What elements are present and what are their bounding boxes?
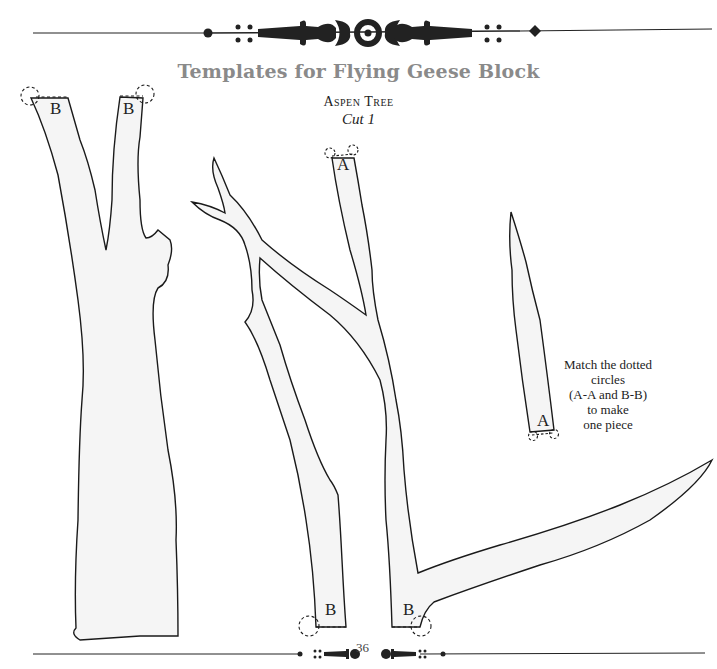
bottom-divider: [33, 649, 705, 659]
page-number: 36: [356, 640, 369, 656]
label-b-branch-right: B: [403, 600, 414, 620]
label-b-trunk-left: B: [50, 99, 61, 119]
label-a-branch: A: [337, 155, 349, 175]
pattern-page: Templates for Flying Geese Block Aspen T…: [0, 0, 717, 669]
note-line-1: Match the dotted: [553, 357, 663, 372]
template-trunk-left: [31, 97, 178, 640]
pattern-name: Aspen Tree: [0, 94, 717, 110]
label-a-twig: A: [537, 411, 549, 431]
template-twig-right: [510, 212, 554, 432]
note-line-2: circles: [553, 372, 663, 387]
cut-instruction: Cut 1: [0, 111, 717, 128]
note-line-5: one piece: [553, 417, 663, 432]
top-divider: [33, 20, 712, 46]
note-line-4: to make: [553, 402, 663, 417]
matching-instruction: Match the dotted circles (A-A and B-B) t…: [553, 357, 663, 432]
label-b-branch-left: B: [325, 600, 336, 620]
note-line-3: (A-A and B-B): [553, 387, 663, 402]
label-b-trunk-right: B: [123, 99, 134, 119]
page-title: Templates for Flying Geese Block: [0, 60, 717, 82]
